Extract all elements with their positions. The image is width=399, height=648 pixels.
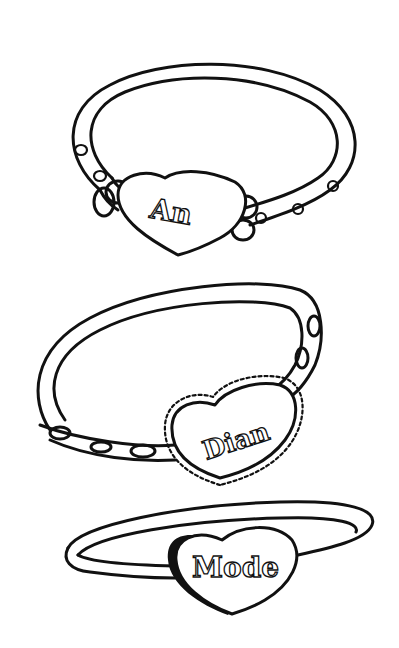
bracelets-drawing: An Dian Mode: [0, 0, 399, 648]
bracelet-mode-label: Mode: [192, 551, 279, 584]
bracelet-an: An: [73, 64, 355, 255]
bracelet-mode: Mode: [66, 502, 373, 615]
bracelet-dian: Dian: [38, 284, 321, 485]
